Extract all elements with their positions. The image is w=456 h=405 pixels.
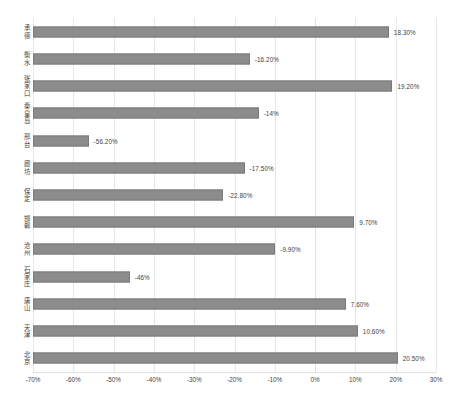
bar-value-label: -56.20%: [94, 137, 118, 144]
bar-row: -46%: [33, 263, 436, 290]
x-tick-label: -70%: [26, 376, 41, 383]
category-label: 唐山: [0, 290, 30, 317]
x-tick-label: 0%: [311, 376, 320, 383]
bar-value-label: -17.50%: [250, 164, 274, 171]
bar-row: 19.20%: [33, 72, 436, 99]
bar[interactable]: [33, 81, 392, 92]
bar[interactable]: [33, 298, 346, 309]
bar[interactable]: [33, 135, 89, 146]
bar[interactable]: [33, 162, 245, 173]
bar[interactable]: [33, 326, 358, 337]
category-label: 张家口: [0, 72, 30, 99]
bar-value-label: -16.20%: [255, 55, 279, 62]
bar-value-label: -22.80%: [228, 191, 252, 198]
x-tick-label: -10%: [267, 376, 282, 383]
bar-row: -17.50%: [33, 154, 436, 181]
x-tick-label: 30%: [430, 376, 443, 383]
bar-row: -56.20%: [33, 127, 436, 154]
bar-row: 10.60%: [33, 318, 436, 345]
bar-row: 18.30%: [33, 18, 436, 45]
category-label: 天津: [0, 318, 30, 345]
bar-value-label: 18.30%: [394, 28, 416, 35]
x-tick-label: -30%: [187, 376, 202, 383]
category-label: 廊坊: [0, 154, 30, 181]
bar[interactable]: [33, 189, 223, 200]
bar-row: -14%: [33, 100, 436, 127]
bar-value-label: -9.90%: [280, 246, 301, 253]
bar-row: -9.90%: [33, 236, 436, 263]
bar[interactable]: [33, 217, 354, 228]
bar[interactable]: [33, 271, 130, 282]
category-label: 邯郸: [0, 209, 30, 236]
bar[interactable]: [33, 353, 398, 364]
bar[interactable]: [33, 53, 250, 64]
category-label: 北京: [0, 345, 30, 372]
category-label: 秦皇岛: [0, 100, 30, 127]
bar-value-label: 7.60%: [351, 300, 369, 307]
bar-chart: -70%-60%-50%-40%-30%-20%-10%0%10%20%30%1…: [0, 0, 456, 405]
category-label: 承德: [0, 18, 30, 45]
category-label: 邢台: [0, 127, 30, 154]
x-tick-label: -20%: [227, 376, 242, 383]
bar-value-label: 20.50%: [403, 355, 425, 362]
bar-value-label: 9.70%: [359, 219, 377, 226]
x-tick-label: -50%: [106, 376, 121, 383]
bar-value-label: -46%: [135, 273, 150, 280]
bar-row: 9.70%: [33, 209, 436, 236]
x-tick-label: 10%: [349, 376, 362, 383]
gridline-30: [436, 18, 437, 372]
x-tick-label: 20%: [389, 376, 402, 383]
bar-value-label: 10.60%: [363, 328, 385, 335]
bar-row: 20.50%: [33, 345, 436, 372]
category-label: 衡水: [0, 45, 30, 72]
category-label: 石家庄: [0, 263, 30, 290]
bar[interactable]: [33, 108, 259, 119]
bar-row: -22.80%: [33, 181, 436, 208]
x-tick-label: -60%: [66, 376, 81, 383]
bar[interactable]: [33, 26, 389, 37]
category-label: 保定: [0, 181, 30, 208]
category-label: 沧州: [0, 236, 30, 263]
x-tick-label: -40%: [147, 376, 162, 383]
x-axis-baseline: [33, 372, 436, 373]
bar[interactable]: [33, 244, 275, 255]
bar-row: -16.20%: [33, 45, 436, 72]
bar-value-label: -14%: [264, 110, 279, 117]
bar-value-label: 19.20%: [397, 83, 419, 90]
bar-row: 7.60%: [33, 290, 436, 317]
